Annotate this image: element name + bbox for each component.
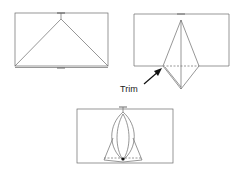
trim-label: Trim xyxy=(120,84,138,94)
step-2-inner-left xyxy=(165,67,181,87)
step-3-center-dot xyxy=(121,157,124,160)
step-1-rectangle xyxy=(15,13,108,66)
step-2-panel xyxy=(134,14,229,89)
trim-arrow-icon xyxy=(144,68,162,84)
step-1-fold-right xyxy=(61,19,108,66)
step-1-fold-left xyxy=(15,19,61,66)
step-1-panel xyxy=(15,13,108,68)
step-3-petal-inner-left xyxy=(117,114,123,160)
step-3-rectangle xyxy=(77,109,173,163)
step-3-petal-inner-right xyxy=(123,114,129,160)
step-3-panel xyxy=(77,107,173,163)
